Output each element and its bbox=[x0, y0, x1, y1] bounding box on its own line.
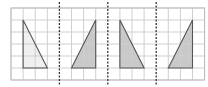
grid-diagram bbox=[0, 0, 208, 87]
diagram-canvas bbox=[0, 0, 208, 87]
